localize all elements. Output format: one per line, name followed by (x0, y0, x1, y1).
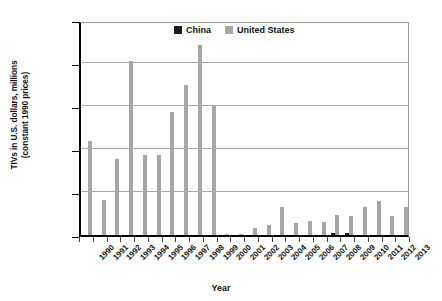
bar-united-states (239, 234, 243, 235)
x-tick-mark (395, 237, 396, 242)
bar-group (164, 23, 178, 235)
bar-united-states (267, 225, 271, 235)
bar-united-states (184, 85, 188, 235)
bar-series-container (81, 23, 408, 235)
bar-group (81, 23, 95, 235)
x-tick-mark (340, 237, 341, 242)
bar-chart: TIVs in U.S. dollars, millions (constant… (0, 0, 442, 301)
x-tick-mark (189, 237, 190, 242)
bar-group (260, 23, 274, 235)
bar-group (191, 23, 205, 235)
bar-united-states (363, 207, 367, 235)
x-tick-mark (203, 237, 204, 242)
bar-group (274, 23, 288, 235)
x-tick-mark (134, 237, 135, 242)
x-tick-mark (162, 237, 163, 242)
bar-united-states (308, 221, 312, 235)
bar-united-states (349, 216, 353, 235)
x-tick-mark (107, 237, 108, 242)
x-tick-mark (299, 237, 300, 242)
bar-group (177, 23, 191, 235)
x-axis-title: Year (0, 283, 442, 293)
y-tick-mark (72, 65, 79, 66)
legend-item-united-states: United States (225, 25, 295, 35)
bar-group (246, 23, 260, 235)
bar-group (205, 23, 219, 235)
bar-united-states (88, 141, 92, 235)
bar-united-states (143, 155, 147, 235)
x-tick-mark (272, 237, 273, 242)
bar-group (232, 23, 246, 235)
bar-group (315, 23, 329, 235)
x-tick-mark (258, 237, 259, 242)
bar-united-states (404, 207, 408, 235)
bar-group (384, 23, 398, 235)
legend-label-united-states: United States (237, 25, 295, 35)
x-tick-mark (120, 237, 121, 242)
bar-united-states (212, 106, 216, 235)
bar-group (122, 23, 136, 235)
x-tick-mark (79, 237, 80, 242)
x-tick-mark (93, 237, 94, 242)
x-tick-mark (368, 237, 369, 242)
x-tick-mark (148, 237, 149, 242)
bar-united-states (129, 61, 133, 235)
x-tick-mark (409, 237, 410, 242)
bar-group (136, 23, 150, 235)
bar-group (370, 23, 384, 235)
bar-group (301, 23, 315, 235)
legend-label-china: China (186, 25, 211, 35)
bar-group (287, 23, 301, 235)
bar-united-states (335, 215, 339, 235)
x-tick-mark (327, 237, 328, 242)
bar-group (342, 23, 356, 235)
x-tick-label: 2013 (413, 243, 432, 262)
x-tick-mark (175, 237, 176, 242)
bar-united-states (390, 216, 394, 235)
bar-group (150, 23, 164, 235)
bar-united-states (102, 200, 106, 235)
x-tick-mark (230, 237, 231, 242)
y-tick-mark (72, 237, 79, 238)
plot-area (79, 22, 409, 237)
bar-united-states (280, 207, 284, 235)
swatch-united-states-icon (225, 26, 233, 34)
bar-united-states (294, 223, 298, 235)
y-tick-mark (72, 194, 79, 195)
bar-group (219, 23, 233, 235)
bar-united-states (170, 112, 174, 235)
bar-united-states (253, 228, 257, 235)
bar-group (109, 23, 123, 235)
bar-united-states (157, 155, 161, 235)
bar-united-states (322, 222, 326, 235)
chart-legend: China United States (174, 25, 295, 35)
y-tick-mark (72, 22, 79, 23)
swatch-china-icon (174, 26, 182, 34)
x-tick-mark (354, 237, 355, 242)
bar-group (356, 23, 370, 235)
legend-item-china: China (174, 25, 211, 35)
bar-group (329, 23, 343, 235)
y-tick-mark (72, 151, 79, 152)
bar-united-states (198, 45, 202, 235)
x-tick-mark (313, 237, 314, 242)
bar-group (95, 23, 109, 235)
y-tick-mark (72, 108, 79, 109)
bar-united-states (377, 201, 381, 235)
y-axis-title: TIVs in U.S. dollars, millions (constant… (9, 17, 31, 213)
x-tick-mark (382, 237, 383, 242)
bar-united-states (225, 234, 229, 235)
bar-united-states (115, 159, 119, 235)
x-tick-mark (285, 237, 286, 242)
x-tick-mark (244, 237, 245, 242)
x-tick-mark (217, 237, 218, 242)
bar-group (397, 23, 411, 235)
